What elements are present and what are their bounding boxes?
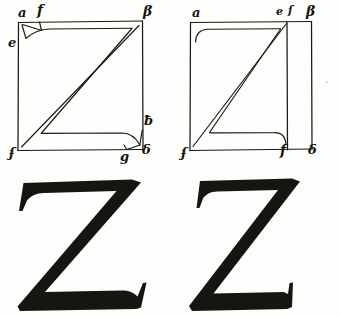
point-label-e: e [276,6,283,17]
plate-construction-z-narrow: a e ſ β ʄ f δ [170,0,340,317]
point-label-a: a [192,6,200,19]
square-frame-left [190,23,191,151]
point-label-s: ſ [288,5,293,16]
z-diagonal-inner [42,29,132,133]
square-frame-right [312,22,313,150]
point-label-beta: β [143,4,152,18]
point-label-f: f [280,143,286,157]
plate-construction-z-wide: a f β e ƀ ʄ g δ [0,0,170,317]
point-label-h: ƀ [144,114,153,127]
serif-bracket-upper-left-b [23,25,42,31]
z-diagonal-outer [193,24,287,147]
point-label-e: e [8,36,16,49]
point-label-c: ʄ [181,146,187,159]
z-diagonal-outer [22,26,140,148]
plate-page: a f β e ƀ ʄ g δ [0,0,341,317]
square-frame-top [19,21,143,23]
point-label-f: f [37,3,43,17]
serif-bracket-lower-right-b [128,145,141,149]
letter-z-wide [0,170,170,317]
serif-tick-f [40,22,42,31]
point-label-delta: δ [308,143,317,156]
point-label-delta: δ [142,143,151,156]
square-frame-bottom [190,149,312,151]
z-top-arm-lower-edge [27,28,133,38]
square-frame-left [18,23,19,151]
letter-z-narrow [170,170,340,317]
square-frame-top [191,22,312,23]
paper-speck [326,81,328,83]
inner-right-boundary [287,22,288,150]
point-label-g: g [120,150,129,163]
point-label-c: ʄ [9,146,15,159]
serif-bracket-upper-left-a [22,25,26,39]
z-bottom-arm-upper-edge [41,133,140,145]
z-bottom-arm-upper-edge [210,133,287,145]
z-top-arm-lower-edge [196,29,281,42]
z-diagonal-inner [210,29,281,133]
point-label-a: a [18,6,26,19]
point-label-beta: β [306,4,315,18]
